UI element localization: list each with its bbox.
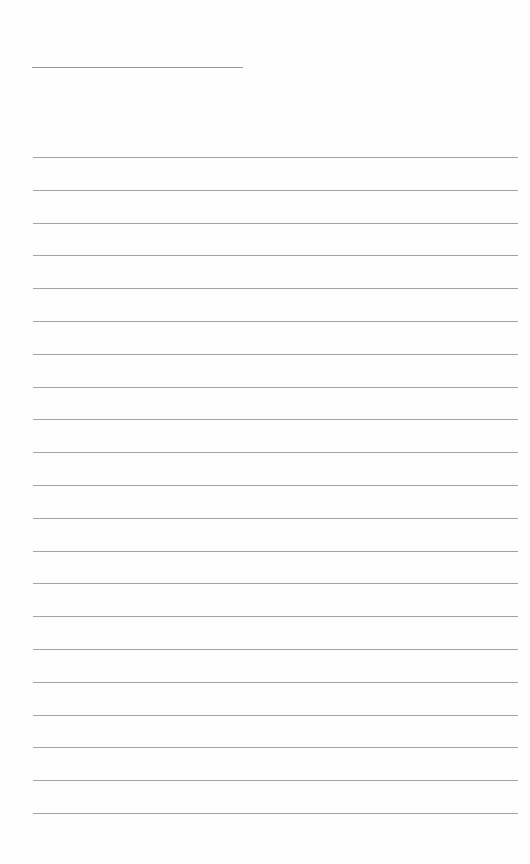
ruled-line	[33, 649, 518, 650]
ruled-line	[33, 551, 518, 552]
ruled-line	[33, 583, 518, 584]
ruled-line	[33, 223, 518, 224]
ruled-line	[33, 452, 518, 453]
ruled-line	[33, 387, 518, 388]
ruled-line	[33, 616, 518, 617]
header-field-line	[32, 67, 243, 68]
ruled-line	[33, 780, 518, 781]
ruled-line	[33, 157, 518, 158]
ruled-line	[33, 321, 518, 322]
ruled-line	[33, 190, 518, 191]
ruled-line	[33, 354, 518, 355]
ruled-line	[33, 485, 518, 486]
ruled-line	[33, 288, 518, 289]
lined-paper-page	[0, 0, 530, 864]
ruled-line	[33, 255, 518, 256]
ruled-line	[33, 747, 518, 748]
ruled-line	[33, 715, 518, 716]
ruled-line	[33, 518, 518, 519]
ruled-line	[33, 682, 518, 683]
ruled-line	[33, 419, 518, 420]
ruled-line	[33, 813, 518, 814]
